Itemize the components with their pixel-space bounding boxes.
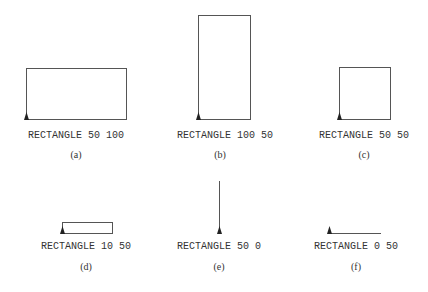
rectangle-a (27, 69, 127, 120)
command-label-c: RECTANGLE 50 50 (319, 130, 409, 141)
command-label-f: RECTANGLE 0 50 (314, 241, 398, 252)
command-label-d: RECTANGLE 10 50 (41, 241, 131, 252)
command-label-e: RECTANGLE 50 0 (177, 241, 261, 252)
caption-a: (a) (70, 149, 81, 160)
rectangle-c (340, 68, 391, 120)
turtle-icon-d (60, 226, 65, 234)
caption-f: (f) (351, 261, 361, 272)
rectangle-d (63, 223, 113, 234)
turtle-icon-f (327, 226, 332, 234)
caption-b: (b) (214, 149, 226, 160)
caption-e: (e) (213, 261, 224, 272)
turtle-icon-b (196, 112, 201, 120)
command-label-a: RECTANGLE 50 100 (28, 130, 124, 141)
caption-d: (d) (80, 261, 92, 272)
rectangle-b (199, 16, 251, 120)
turtle-icon-e (217, 226, 222, 234)
turtle-icon-c (337, 112, 342, 120)
command-label-b: RECTANGLE 100 50 (177, 130, 273, 141)
caption-c: (c) (358, 149, 369, 160)
turtle-icon-a (24, 112, 29, 120)
